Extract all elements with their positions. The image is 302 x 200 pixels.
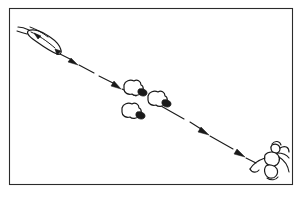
sheep-3-head bbox=[136, 112, 145, 119]
path-dash-2 bbox=[79, 65, 94, 73]
path-dash-3 bbox=[99, 76, 113, 83]
path-dash-1 bbox=[60, 54, 70, 59]
shepherd-legs bbox=[265, 165, 278, 178]
shepherd-torso bbox=[265, 152, 280, 166]
shepherd-hand bbox=[250, 169, 259, 172]
shepherd-raised-arm bbox=[280, 147, 289, 152]
drive-path bbox=[60, 54, 256, 163]
sheep-1-figure bbox=[124, 80, 147, 96]
dog-tail-fringe bbox=[17, 31, 27, 34]
dog-figure bbox=[17, 27, 61, 55]
path-arrowhead-5 bbox=[234, 149, 245, 157]
path-dash-6 bbox=[190, 122, 201, 129]
dog-tail bbox=[18, 27, 29, 30]
sheep-2-head bbox=[162, 100, 171, 107]
sheep-2-figure bbox=[148, 91, 171, 107]
path-dash-5 bbox=[161, 106, 184, 119]
herding-diagram bbox=[0, 0, 302, 200]
shepherd-staff bbox=[279, 157, 289, 172]
path-dash-8 bbox=[246, 158, 256, 163]
figure-container: Sheepdog herding diagram Line drawing of… bbox=[0, 0, 302, 200]
shepherd-figure bbox=[250, 141, 289, 179]
path-dash-7 bbox=[210, 136, 233, 149]
sheep-3-figure bbox=[122, 103, 145, 119]
sheep-1-head bbox=[138, 89, 147, 96]
shepherd-extended-arm bbox=[250, 158, 265, 169]
